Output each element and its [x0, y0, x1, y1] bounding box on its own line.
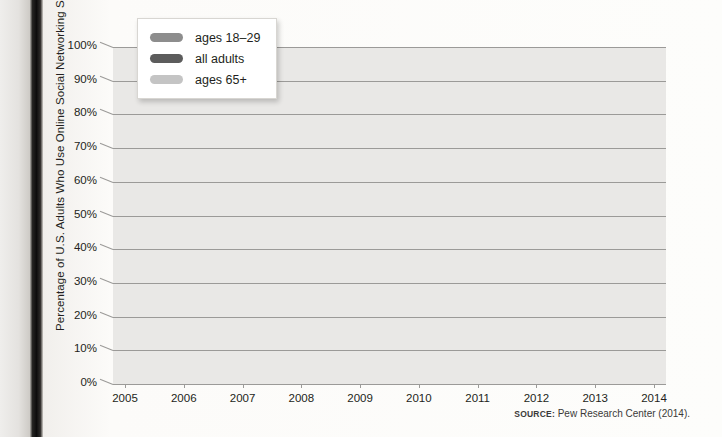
legend-item: all adults — [150, 48, 260, 69]
x-axis-tick — [595, 384, 596, 388]
x-axis-tick — [654, 384, 655, 388]
x-axis-tick-label: 2010 — [389, 392, 449, 404]
y-axis-tick-label: 10% — [51, 342, 97, 354]
legend-swatch-all-adults — [150, 54, 183, 63]
y-axis-tick-label: 20% — [51, 309, 97, 321]
x-axis-tick — [419, 384, 420, 388]
x-axis-tick-label: 2011 — [448, 392, 508, 404]
legend-item: ages 18–29 — [150, 27, 260, 48]
book-gutter-shadow — [30, 0, 43, 437]
source-keyword: SOURCE: — [514, 409, 555, 419]
y-axis-tick-label: 90% — [51, 73, 97, 85]
x-axis-tick — [360, 384, 361, 388]
y-axis-tick-label: 40% — [51, 241, 97, 253]
legend-swatch-ages-18-29 — [150, 33, 183, 42]
x-axis-tick-label: 2014 — [624, 392, 684, 404]
x-axis-tick-label: 2007 — [213, 392, 273, 404]
y-axis-tick-label: 80% — [51, 106, 97, 118]
y-axis-tick-label: 70% — [51, 140, 97, 152]
x-axis-tick — [536, 384, 537, 388]
book-page-edge — [0, 0, 31, 437]
x-axis-tick — [125, 384, 126, 388]
x-axis-tick-label: 2013 — [565, 392, 625, 404]
source-text: Pew Research Center (2014). — [555, 408, 690, 419]
legend-label-all-adults: all adults — [195, 52, 244, 66]
y-axis-tick-label: 100% — [51, 39, 97, 51]
y-axis-tick-label: 60% — [51, 174, 97, 186]
x-axis-tick-label: 2009 — [330, 392, 390, 404]
legend-label-ages-65-plus: ages 65+ — [195, 73, 247, 87]
x-axis-tick-label: 2006 — [154, 392, 214, 404]
x-axis-tick — [301, 384, 302, 388]
source-citation: SOURCE: Pew Research Center (2014). — [514, 408, 690, 419]
x-axis-tick-label: 2008 — [271, 392, 331, 404]
legend-label-ages-18-29: ages 18–29 — [195, 31, 260, 45]
y-axis-tick-label: 50% — [51, 208, 97, 220]
x-axis-tick — [184, 384, 185, 388]
chart-page: Percentage of U.S. Adults Who Use Online… — [0, 0, 722, 437]
x-axis-tick-label: 2005 — [95, 392, 155, 404]
legend-item: ages 65+ — [150, 69, 260, 90]
y-axis-tick-label: 0% — [51, 376, 97, 388]
y-axis-tick-labels: 100%90%80%70%60%50%40%30%20%10%0% — [47, 47, 97, 384]
legend: ages 18–29 all adults ages 65+ — [137, 18, 277, 99]
x-axis-tick-label: 2012 — [506, 392, 566, 404]
legend-swatch-ages-65-plus — [150, 75, 183, 84]
x-axis-tick — [243, 384, 244, 388]
x-axis-tick — [478, 384, 479, 388]
y-axis-tick-label: 30% — [51, 275, 97, 287]
